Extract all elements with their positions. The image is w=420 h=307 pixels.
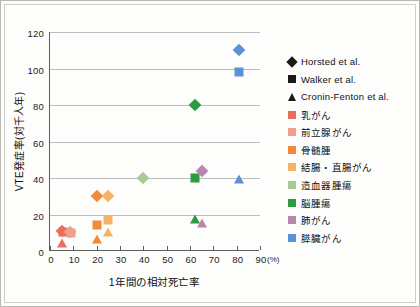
x-tick-label-70: 70 — [209, 254, 220, 265]
legend-item-label: Horsted et al. — [301, 56, 360, 67]
gridline-y-40: 40 — [50, 178, 260, 179]
legend: Horsted et al.Walker et al.Cronin-Fenton… — [288, 53, 416, 247]
y-axis-title: VTE発症率(対千人年) — [11, 32, 25, 251]
legend-item[interactable]: 結腸・直腸がん — [288, 159, 416, 177]
figure-container: 020406080100120 0102030405060708090 (%) … — [0, 0, 420, 307]
legend-item-label: Cronin-Fenton et al. — [301, 91, 389, 102]
legend-item[interactable]: 前立腺がん — [288, 123, 416, 141]
x-axis-title: 1年間の相対死亡率 — [49, 274, 259, 289]
data-point — [137, 172, 150, 185]
legend-square-icon — [288, 216, 296, 224]
legend-item[interactable]: 膵臓がん — [288, 229, 416, 247]
x-tick-label-60: 60 — [186, 254, 197, 265]
data-point — [235, 68, 244, 77]
legend-item[interactable]: Walker et al. — [288, 71, 416, 89]
x-tick-label-10: 10 — [69, 254, 80, 265]
legend-item[interactable]: Horsted et al. — [288, 53, 416, 71]
data-point — [92, 235, 102, 244]
legend-diamond-icon — [286, 56, 297, 67]
y-tick-label-100: 100 — [28, 64, 44, 75]
x-tick-label-20: 20 — [92, 254, 103, 265]
x-tick-label-80: 80 — [232, 254, 243, 265]
legend-square-icon — [288, 163, 296, 171]
data-point — [188, 99, 201, 112]
gridline-y-0: 0 — [50, 251, 260, 252]
x-tick-label-40: 40 — [139, 254, 150, 265]
legend-item-label: 膵臓がん — [301, 231, 342, 245]
x-tick-70: 70 — [213, 246, 214, 250]
legend-item-label: 前立腺がん — [301, 125, 352, 139]
data-point — [57, 238, 67, 247]
legend-square-icon — [288, 75, 296, 83]
data-point — [92, 221, 101, 230]
x-tick-30: 30 — [120, 246, 121, 250]
legend-item-label: 脳腫瘍 — [301, 196, 332, 210]
y-tick-label-40: 40 — [33, 174, 44, 185]
legend-item[interactable]: 肺がん — [288, 211, 416, 229]
x-tick-90: 90 — [260, 246, 261, 250]
data-point — [102, 190, 115, 203]
y-tick-label-120: 120 — [28, 28, 44, 39]
gridline-y-60: 60 — [50, 142, 260, 143]
x-tick-label-90: 90 — [256, 254, 267, 265]
y-tick-label-80: 80 — [33, 101, 44, 112]
legend-item[interactable]: 造血器腫瘍 — [288, 176, 416, 194]
data-point — [104, 215, 113, 224]
gridline-y-120: 120 — [50, 32, 260, 33]
data-point — [103, 227, 113, 236]
legend-item-label: 乳がん — [301, 108, 332, 122]
x-tick-label-30: 30 — [116, 254, 127, 265]
x-tick-10: 10 — [73, 246, 74, 250]
gridline-y-100: 100 — [50, 69, 260, 70]
x-axis-unit-label: (%) — [267, 255, 279, 264]
x-tick-label-0: 0 — [48, 254, 53, 265]
plot-area: 020406080100120 0102030405060708090 (%) — [49, 32, 259, 251]
legend-item-label: 造血器腫瘍 — [301, 178, 352, 192]
legend-item[interactable]: 乳がん — [288, 106, 416, 124]
y-tick-label-0: 0 — [39, 247, 44, 258]
legend-square-icon — [288, 199, 296, 207]
legend-square-icon — [288, 128, 296, 136]
legend-square-icon — [288, 111, 296, 119]
x-tick-label-50: 50 — [162, 254, 173, 265]
legend-item-label: 骨髄腫 — [301, 143, 332, 157]
legend-item-label: 結腸・直腸がん — [301, 160, 372, 174]
legend-item[interactable]: 脳腫瘍 — [288, 194, 416, 212]
legend-item[interactable]: Cronin-Fenton et al. — [288, 88, 416, 106]
legend-triangle-icon — [288, 93, 296, 101]
legend-item[interactable]: 骨髄腫 — [288, 141, 416, 159]
y-tick-label-20: 20 — [33, 210, 44, 221]
legend-square-icon — [288, 181, 296, 189]
x-tick-20: 20 — [97, 246, 98, 250]
x-tick-40: 40 — [143, 246, 144, 250]
data-point — [197, 218, 207, 227]
gridline-y-20: 20 — [50, 215, 260, 216]
legend-item-label: Walker et al. — [301, 74, 356, 85]
legend-item-label: 肺がん — [301, 213, 332, 227]
x-tick-60: 60 — [190, 246, 191, 250]
data-point — [190, 174, 199, 183]
data-point — [233, 44, 246, 57]
x-tick-0: 0 — [50, 246, 51, 250]
x-tick-80: 80 — [237, 246, 238, 250]
legend-square-icon — [288, 146, 296, 154]
y-tick-label-60: 60 — [33, 137, 44, 148]
x-tick-50: 50 — [167, 246, 168, 250]
legend-square-icon — [288, 234, 296, 242]
gridline-y-80: 80 — [50, 105, 260, 106]
data-point — [234, 175, 244, 184]
